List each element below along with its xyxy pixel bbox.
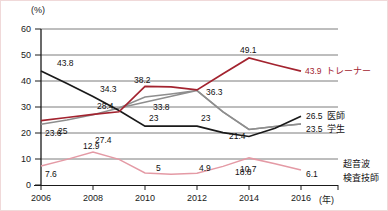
y-axis-ticks	[35, 29, 41, 185]
gridlines	[41, 29, 338, 159]
series-line-student	[41, 91, 301, 130]
data-label-doctor-end: 26.5	[306, 111, 323, 121]
data-label-echo-2006: 7.6	[45, 169, 57, 179]
data-label-echo-end: 6.1	[306, 169, 318, 179]
data-label-doctor-2008: 34.3	[100, 84, 117, 94]
series-line-echo	[41, 152, 301, 174]
chart-container: (%) 60 50 40 30 20 10 0 2006 2008 2010 2…	[0, 0, 388, 211]
data-label-echo-2012: 4.9	[199, 163, 211, 173]
series-label-doctor: 医師	[327, 111, 345, 122]
data-label-echo-2010: 5	[156, 163, 161, 173]
plot-area	[1, 1, 388, 211]
data-label-trainer-2010: 38.2	[134, 75, 151, 85]
data-label-trainer-end: 43.9	[305, 66, 322, 76]
data-label-doctor-2012: 23	[201, 113, 210, 123]
series-label-student: 学生	[327, 124, 345, 135]
series-label-trainer: トレーナー	[326, 66, 371, 77]
data-label-student-2010: 33.8	[153, 102, 170, 112]
data-label-student-end: 23.5	[306, 124, 323, 134]
series-label-echo-line1: 超音波	[343, 159, 370, 170]
data-label-student-2012: 36.3	[206, 87, 223, 97]
data-label-echo-2008: 12.9	[83, 141, 100, 151]
data-label-student-2014: 21.4	[229, 131, 246, 141]
data-label-doctor-2006: 43.8	[57, 58, 74, 68]
data-label-student-2006: 23.6	[45, 128, 62, 138]
series-label-echo-line2: 検査技師	[343, 173, 379, 184]
data-label-doctor-2010: 23	[149, 113, 158, 123]
data-label-trainer-2014: 49.1	[240, 45, 257, 55]
data-label-trainer-2009: 28.4	[97, 101, 114, 111]
data-label-echo-2014: 10.7	[240, 164, 257, 174]
